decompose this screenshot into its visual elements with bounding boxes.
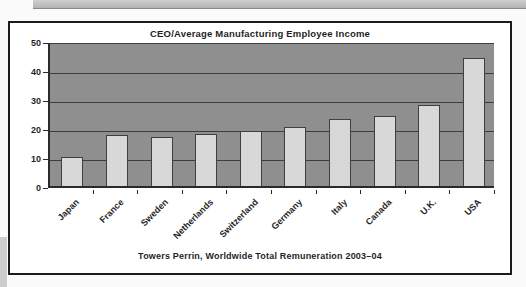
x-axis-label: Switzerland: [217, 197, 259, 239]
y-axis-tick: [43, 72, 48, 73]
x-axis-label: Netherlands: [171, 197, 215, 241]
x-axis-label: Japan: [56, 197, 81, 222]
x-axis-tick: [182, 190, 183, 194]
x-axis-label: France: [98, 197, 126, 225]
y-axis-tick: [43, 43, 48, 44]
x-axis-tick: [93, 190, 94, 194]
bar: [61, 157, 83, 186]
y-axis-label: 10: [10, 154, 41, 164]
x-axis-tick: [494, 190, 495, 194]
y-axis-tick: [43, 101, 48, 102]
y-axis-tick: [43, 159, 48, 160]
y-axis-label: 20: [10, 125, 41, 135]
y-axis-label: 30: [10, 96, 41, 106]
bar: [151, 137, 173, 186]
y-axis-tick: [43, 130, 48, 131]
y-axis-label: 0: [10, 183, 41, 193]
bar: [374, 116, 396, 186]
x-axis-label: Sweden: [139, 197, 170, 228]
bar: [418, 105, 440, 186]
bar: [240, 131, 262, 186]
scan-shadow: [0, 237, 7, 287]
bar: [195, 134, 217, 186]
x-axis-tick: [137, 190, 138, 194]
bar: [106, 135, 128, 186]
plot-area: [48, 43, 494, 188]
x-axis-label: Canada: [364, 197, 394, 227]
bar: [284, 127, 306, 186]
bar: [329, 119, 351, 186]
x-axis-label: U.K.: [418, 197, 438, 217]
x-axis-tick: [449, 190, 450, 194]
chart-source-caption: Towers Perrin, Worldwide Total Remunerat…: [10, 251, 510, 261]
x-axis-label: Italy: [329, 197, 349, 217]
gridline: [50, 102, 494, 103]
y-axis-label: 50: [10, 38, 41, 48]
x-axis-tick: [271, 190, 272, 194]
chart-title: CEO/Average Manufacturing Employee Incom…: [10, 28, 510, 39]
x-axis-tick: [226, 190, 227, 194]
x-axis-label: Germany: [270, 197, 305, 232]
x-axis-label: USA: [462, 197, 483, 218]
x-axis-tick: [316, 190, 317, 194]
x-axis-tick: [405, 190, 406, 194]
gridline: [50, 73, 494, 74]
page-header-strip: [33, 0, 526, 9]
bar: [463, 58, 485, 186]
x-axis-tick: [360, 190, 361, 194]
chart-canvas: CEO/Average Manufacturing Employee Incom…: [10, 23, 510, 273]
chart-frame: CEO/Average Manufacturing Employee Incom…: [8, 21, 512, 275]
y-axis-label: 40: [10, 67, 41, 77]
y-axis-tick: [43, 188, 48, 189]
